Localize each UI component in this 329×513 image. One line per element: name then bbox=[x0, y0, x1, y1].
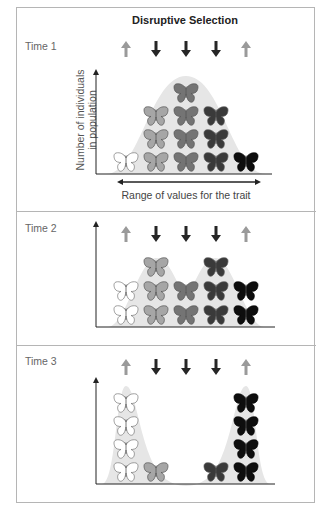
selection-arrow-down-icon bbox=[211, 226, 221, 242]
butterfly-icon bbox=[114, 282, 138, 301]
butterfly-icon bbox=[234, 282, 258, 301]
diagram-canvas bbox=[0, 0, 329, 513]
selection-arrow-up-icon bbox=[121, 359, 131, 375]
selection-arrow-up-icon bbox=[241, 41, 251, 57]
selection-arrow-down-icon bbox=[151, 359, 161, 375]
selection-arrow-down-icon bbox=[211, 359, 221, 375]
selection-arrow-down-icon bbox=[181, 359, 191, 375]
selection-arrow-down-icon bbox=[211, 41, 221, 57]
selection-arrow-up-icon bbox=[121, 226, 131, 242]
selection-arrow-down-icon bbox=[151, 41, 161, 57]
selection-arrow-up-icon bbox=[121, 41, 131, 57]
selection-arrow-up-icon bbox=[241, 359, 251, 375]
selection-arrow-down-icon bbox=[181, 41, 191, 57]
selection-arrow-down-icon bbox=[151, 226, 161, 242]
selection-arrow-down-icon bbox=[181, 226, 191, 242]
selection-arrow-up-icon bbox=[241, 226, 251, 242]
